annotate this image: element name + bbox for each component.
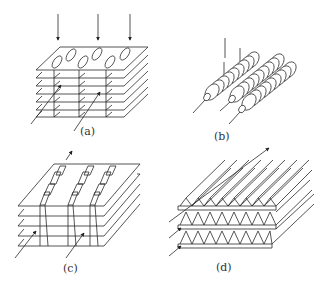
panel-d-label: (d) bbox=[216, 261, 232, 274]
panel-b bbox=[193, 38, 299, 124]
panel-b-label: (b) bbox=[214, 130, 230, 143]
panel-d bbox=[169, 148, 314, 256]
panel-c bbox=[15, 151, 140, 258]
panel-a bbox=[31, 14, 148, 131]
diagram-figure bbox=[0, 0, 332, 287]
panel-c-label: (c) bbox=[63, 262, 78, 275]
panel-a-label: (a) bbox=[80, 125, 95, 138]
